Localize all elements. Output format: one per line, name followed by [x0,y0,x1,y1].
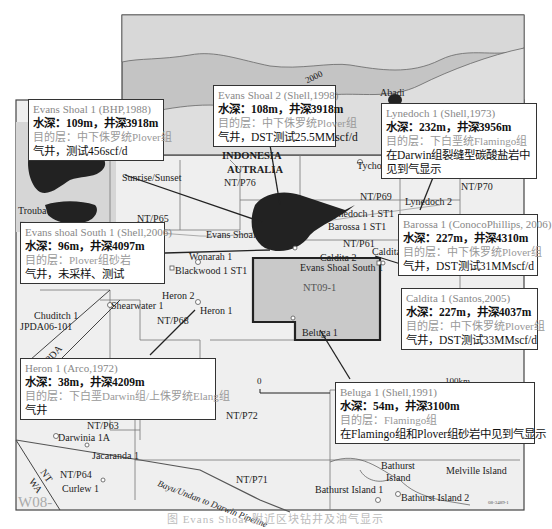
callout-title: Beluga 1 (Shell,1991) [340,385,530,399]
callout-target: 目的层：中下侏罗统Plover组 [218,116,331,130]
block-label-nt-p69: NT/P69 [360,191,392,202]
block-label-jpda06-101: JPDA06-101 [20,321,72,332]
well-label-shearwater-1: Shearwater 1 [111,300,163,311]
callout-title: Evans Shoal 1 (BHP,1988) [33,102,159,116]
callout-depth: 水深：227m，井深4310m [403,231,533,245]
callout-result: 在Darwin组裂缝型碳酸盐岩中见到气显示 [386,148,532,176]
block-label-nt-p63: NT/P63 [87,420,119,431]
well-label-barossa-1-st1: Barossa 1 ST1 [328,221,386,232]
callout-title: Evans Shoal 2 (Shell,1998) [218,88,331,102]
callout-result: 在Flamingo组和Plover组砂岩中见到气显示 [340,427,530,441]
well-label-evans-shoal-south-1: Evans Shoal South 1 [300,262,383,273]
callout-target: 目的层：Plover组砂岩 [25,253,160,267]
callout-depth: 水深：232m，井深3956m [386,120,532,134]
figure-caption: 图 Evans Shoal 附近区块钻井及油气显示 [0,510,551,526]
block-label-nt09-1: NT09-1 [303,282,336,293]
well-label-bathurst-island-1: Bathurst Island 1 [315,484,383,495]
field-label-abadi: Abadi [380,87,404,98]
callout-depth: 水深：38m，井深4209m [25,375,211,389]
country-label-australia: AUTRALIA [227,164,283,175]
well-label-caldita: Caldita [372,246,401,257]
block-label-nt-p76: NT/P76 [224,177,256,188]
island-label-island: Island [386,472,410,483]
callout-result: 气井，DST测试25.5MMscf/d [218,130,331,144]
callout-depth: 水深：227m，井深4037m [406,305,533,319]
callout-caldita-1: Caldita 1 (Santos,2005) 水深：227m，井深4037m … [401,288,538,350]
callout-evans-shoal-south-1: Evans shoal South 1 (Shell,2006) 水深：96m，… [20,222,165,284]
well-label-tycho: Tycho [357,160,382,171]
callout-title: Barossa 1 (ConocoPhillips, 2006) [403,217,533,231]
well-label-wonarah-1: Wonarah 1 [189,251,232,262]
callout-evans-shoal-2: Evans Shoal 2 (Shell,1998) 水深：108m，井深391… [213,85,336,147]
block-label-nt-p71: NT/P71 [236,474,268,485]
callout-target: 目的层：下白垩Darwin组/上侏罗统Elang组 [25,389,211,403]
callout-depth: 水深：109m，井深3918m [33,116,159,130]
callout-evans-shoal-1: Evans Shoal 1 (BHP,1988) 水深：109m，井深3918m… [28,99,164,161]
callout-target: 目的层：中下侏罗统Plover组 [403,245,533,259]
callout-heron-1: Heron 1 (Arco,1972) 水深：38m，井深4209m 目的层：下… [20,358,216,420]
callout-depth: 水深：54m，井深3100m [340,399,530,413]
island-label-melville: Melville Island [446,465,507,476]
field-label-sunrise-sunset: Sunrise/Sunset [122,172,181,183]
well-label-heron-1: Heron 1 [200,305,233,316]
callout-title: Heron 1 (Arco,1972) [25,361,211,375]
callout-title: Caldita 1 (Santos,2005) [406,291,533,305]
field-label-troubadour: Troubadour [18,205,65,216]
well-label-heron-2: Heron 2 [162,290,195,301]
well-label-curlew-1: Curlew 1 [62,483,99,494]
island-label-bathurst: Bathurst [381,460,415,471]
callout-depth: 水深：108m，井深3918m [218,102,331,116]
well-label-lynedoch-1-st1: Lynedoch 1 ST1 [328,208,394,219]
country-label-indonesia: INDONESIA [222,150,282,161]
callout-target: 目的层：Flamingo组 [340,413,530,427]
well-label-lynedoch-2: Lynedoch 2 [405,196,452,207]
callout-target: 目的层：中下侏罗统Plover组 [33,130,159,144]
callout-title: Lynedoch 1 (Shell,1973) [386,106,532,120]
well-label-darwinia-1a: Darwinia 1A [58,432,110,443]
block-label-nt-p64: NT/P64 [60,469,92,480]
well-label-beluga-1: Beluga 1 [302,327,338,338]
callout-depth: 水深：96m，井深4097m [25,239,160,253]
figure-code: 08-3489-1 [488,500,509,505]
field-label-evans-shoal: Evans Shoal [206,229,256,240]
scale-start-label: 0 [257,376,262,387]
callout-result: 气井，未采样、测试 [25,267,160,281]
watermark: W08- [18,494,52,511]
callout-result: 气井 [25,403,211,417]
well-label-jacaranda-1: Jacaranda 1 [92,450,139,461]
callout-result: 气井，DST测试33MMscf/d [406,333,533,347]
well-label-bathurst-island-2: Bathurst Island 2 [401,492,469,503]
block-label-nt-p70: NT/P70 [461,181,493,192]
block-label-nt-p61: NT/P61 [343,238,375,249]
callout-result: 气井，DST测试31MMscf/d [403,259,533,273]
callout-target: 目的层：下白垩统Flamingo组 [386,134,532,148]
block-label-nt-p72: NT/P72 [226,410,258,421]
block-label-nt-p68: NT/P68 [157,315,189,326]
callout-beluga-1: Beluga 1 (Shell,1991) 水深：54m，井深3100m 目的层… [335,382,535,444]
callout-title: Evans shoal South 1 (Shell,2006) [25,225,160,239]
callout-barossa-1: Barossa 1 (ConocoPhillips, 2006) 水深：227m… [398,214,538,276]
callout-target: 目的层：中下侏罗统Plover组 [406,319,533,333]
well-label-blackwood-1-st1: Blackwood 1 ST1 [175,265,247,276]
callout-result: 气井，测试456scf/d [33,144,159,158]
well-label-chuditch-1: Chuditch 1 [34,310,78,321]
callout-lynedoch-1: Lynedoch 1 (Shell,1973) 水深：232m，井深3956m … [381,103,537,179]
